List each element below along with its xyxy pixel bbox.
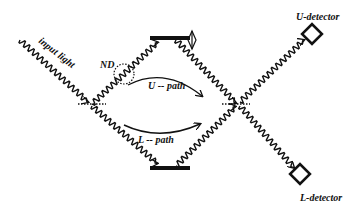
upper-mirror bbox=[150, 36, 190, 40]
l-path-arrow bbox=[124, 124, 200, 133]
l-path-label: L -- path bbox=[137, 134, 174, 145]
u-path-label: U -- path bbox=[148, 80, 186, 91]
interferometer-diagram: input light ND U -- path L -- path U-det… bbox=[0, 0, 361, 213]
input-light-label: input light bbox=[37, 35, 79, 71]
lower-mirror bbox=[150, 166, 190, 170]
u-detector-icon bbox=[302, 24, 322, 44]
l-detector-label: L-detector bbox=[299, 192, 342, 203]
nd-label: ND bbox=[99, 59, 114, 70]
nd-filter-icon bbox=[114, 64, 134, 84]
u-detector-label: U-detector bbox=[296, 11, 339, 22]
